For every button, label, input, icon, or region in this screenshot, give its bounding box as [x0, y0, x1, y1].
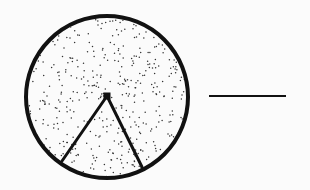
- circle-diagram: [0, 0, 310, 190]
- radius-line-left: [62, 96, 107, 161]
- center-point: [104, 93, 111, 100]
- radius-line-right: [107, 96, 142, 167]
